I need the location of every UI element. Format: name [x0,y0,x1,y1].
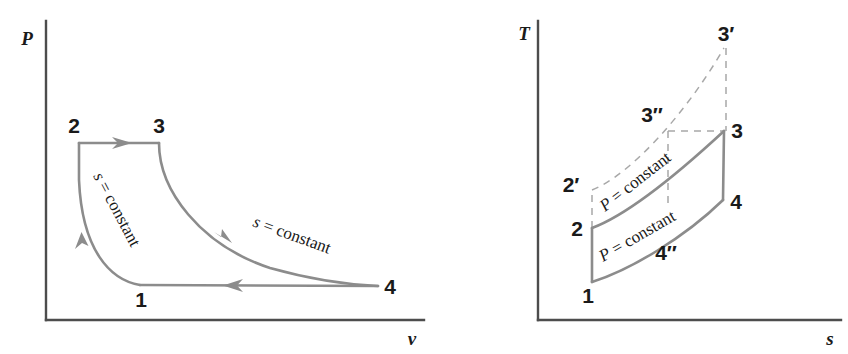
pv-state-label-1: 1 [135,288,147,311]
ts-state-label-2-prime: 2′ [563,173,580,196]
ts-state-label-4-double-prime: 4″ [655,241,677,264]
ts-state-label-3-prime: 3′ [718,22,735,45]
pv-x-axis-label: v [408,328,417,349]
ts-state-label-3: 3 [731,119,743,142]
pv-label-s-constant-expansion: s = constant [251,212,334,258]
pv-label-s-constant-compression: s = constant [89,169,144,250]
ts-state-label-1: 1 [582,284,594,307]
ts-diagram-group: T s 1 2 2′ 3 3′ 3″ 4 4″ P = constant P =… [518,21,841,349]
pv-process-3-4 [159,143,378,286]
pv-process-4-1 [140,285,378,286]
ts-y-axis-label: T [518,23,531,44]
ts-x-axis-label: s [825,328,833,349]
pv-arrow-1-2 [75,232,89,249]
ts-state-label-3-double-prime: 3″ [641,103,663,126]
pv-label-equals-constant-right: = constant [257,214,334,258]
pv-state-label-4: 4 [384,275,396,298]
ts-state-label-4: 4 [730,190,742,213]
pv-state-label-3: 3 [153,114,165,137]
pv-state-label-2: 2 [68,114,80,137]
pv-diagram-group: P v 1 2 3 4 s = constant s = constant [20,21,424,349]
diagram-canvas: P v 1 2 3 4 s = constant s = constant [0,0,848,354]
pv-label-equals-constant-left: = constant [93,175,145,250]
pv-y-axis-label: P [20,28,33,49]
brayton-cycle-figure: P v 1 2 3 4 s = constant s = constant [0,0,848,354]
ts-process-3-4 [723,131,724,200]
ts-state-label-2: 2 [571,217,583,240]
